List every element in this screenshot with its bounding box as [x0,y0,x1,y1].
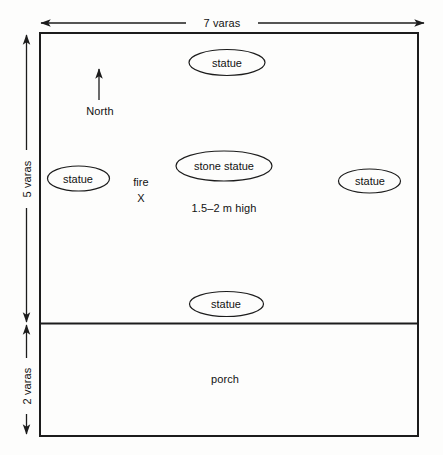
fire-label: fire [133,176,149,188]
statue-west-label: statue [63,173,93,185]
statue-north-label: statue [212,57,242,69]
width-dimension-label: 7 varas [204,17,241,29]
porch-label: porch [211,373,239,385]
main-room-height-dimension-label: 5 varas [21,161,33,198]
fire-marker: X [137,192,144,204]
stone-statue-height-note: 1.5–2 m high [192,202,257,214]
statue-east-label: statue [355,175,385,187]
statue-south-label: statue [211,298,241,310]
porch-height-dimension-label: 2 varas [21,368,33,405]
north-label: North [86,105,113,117]
statue-center-label: stone statue [194,160,254,172]
site-plan-diagram: 7 varas 5 varas 2 varas North statue sta… [0,0,443,455]
